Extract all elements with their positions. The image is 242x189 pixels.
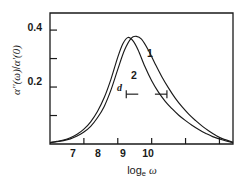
axis-frame — [50, 13, 233, 144]
distance-arrow — [126, 90, 167, 98]
plot-area — [0, 0, 242, 189]
curve-series-1 — [50, 36, 233, 142]
curve-series-2 — [50, 37, 233, 142]
plot-frame — [50, 13, 233, 144]
chart-figure: α′′(ω)/α′(0) loge ω 0.4 0.2 7 8 9 10 1 2… — [0, 0, 242, 189]
data-curves — [50, 36, 233, 142]
